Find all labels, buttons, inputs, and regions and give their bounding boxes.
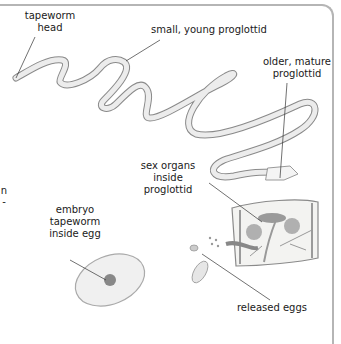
label-tapeworm-head: tapeworm head [14,10,86,34]
label-cropped-left-2: - [0,196,8,208]
egg-illustration [68,244,153,315]
label-released-eggs: released eggs [222,302,322,314]
label-mature-proglottid: older, mature proglottid [254,56,340,80]
proglottid-cross-section [226,200,318,266]
released-eggs-illustration [189,237,219,286]
label-embryo-egg: embryo tapeworm inside egg [40,204,110,240]
label-sex-organs: sex organs inside proglottid [128,160,208,196]
label-young-proglottid: small, young proglottid [134,24,284,36]
